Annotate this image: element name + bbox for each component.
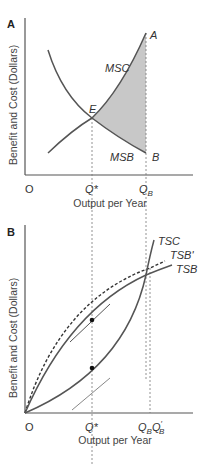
point-a-label: A [149,29,157,41]
panel-b-y-title: Benefit and Cost (Dollars) [7,278,19,398]
panel-b-q-star-label: Q* [85,421,99,433]
tsb-prime-label: TSB' [170,249,194,261]
tsb-tangent-line [70,304,110,342]
tsb-curve [25,265,172,413]
panel-a-label: A [7,18,15,30]
panel-b: B TSC TSB' TSB O Q* QB Q′B Output per Ye… [7,225,197,446]
panel-b-x-title: Output per Year [78,434,152,446]
panel-a-q-b-label: QB [139,183,154,198]
panel-b-q-b-prime-label: Q′B [152,419,165,436]
panel-b-label: B [7,226,15,238]
panel-a-y-title: Benefit and Cost (Dollars) [7,45,19,165]
figure: A MSC MSB E A B O Q* QB Output per Year … [0,0,206,465]
tsb-label: TSB [176,263,197,275]
tsc-curve [25,240,154,413]
panel-a-origin-label: O [25,183,34,195]
point-e-label: E [89,103,97,115]
point-b-label: B [152,151,159,163]
tsc-tangent-point [90,366,95,371]
msc-label: MSC [105,62,130,74]
tsc-label: TSC [158,235,180,247]
panel-b-origin-label: O [25,421,34,433]
panel-a-q-star-label: Q* [85,183,99,195]
tsb-tangent-point [90,318,95,323]
msb-label: MSB [110,151,134,163]
panel-a-x-title: Output per Year [73,197,147,209]
